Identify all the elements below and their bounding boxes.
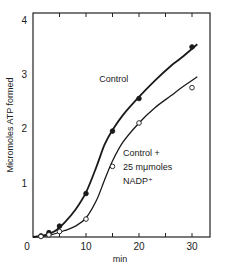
y-tick-label: 1 <box>21 178 27 189</box>
curve-annotation: Control <box>99 74 128 84</box>
curve-annotation: NADP⁺ <box>123 176 153 186</box>
x-tick-label: 30 <box>186 241 198 252</box>
nadp-curve <box>33 77 197 237</box>
x-axis-label: min <box>113 254 128 264</box>
atp-formation-chart: 10203001234 ControlControl +25 mμmolesNA… <box>0 0 226 273</box>
y-axis-label: Micromoles ATP formed <box>5 77 15 172</box>
x-tick-label: 20 <box>133 241 145 252</box>
data-curves <box>33 44 197 237</box>
filled-circle-marker <box>190 45 195 50</box>
open-circle-marker <box>190 85 195 90</box>
filled-circle-marker <box>84 191 89 196</box>
origin-label: 0 <box>24 241 30 252</box>
y-tick-label: 4 <box>21 15 27 26</box>
open-circle-marker <box>110 164 115 169</box>
plot-frame <box>33 13 210 237</box>
curve-annotation: Control + <box>123 148 160 158</box>
filled-circle-marker <box>57 224 62 229</box>
open-circle-marker <box>84 217 89 222</box>
open-circle-marker <box>57 229 62 234</box>
open-circle-marker <box>39 234 44 239</box>
x-tick-label: 10 <box>80 241 92 252</box>
filled-circle-marker <box>110 129 115 134</box>
open-circle-marker <box>137 121 142 126</box>
open-circle-marker <box>47 233 52 238</box>
control-curve <box>33 44 197 237</box>
curve-annotation: 25 mμmoles <box>123 162 173 172</box>
y-tick-label: 3 <box>21 69 27 80</box>
y-tick-label: 2 <box>21 123 27 134</box>
filled-circle-marker <box>137 96 142 101</box>
